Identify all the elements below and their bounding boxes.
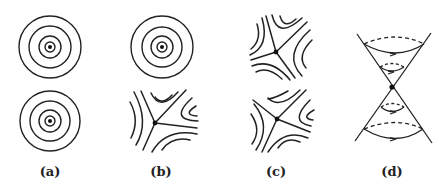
panel-c-bottom-saddle <box>251 90 314 152</box>
panel-label-c: (c) <box>266 164 286 179</box>
phase-portrait-figure <box>0 0 447 184</box>
panel-a-top-center <box>19 16 81 78</box>
panel-b-bottom-saddle <box>130 90 198 152</box>
panel-label-d: (d) <box>381 164 402 179</box>
panel-label-b: (b) <box>150 164 171 179</box>
panel-b-top-center <box>131 16 193 78</box>
panel-label-a: (a) <box>40 164 61 179</box>
panel-a-bottom-center <box>20 91 80 151</box>
panel-d-double-cone <box>355 33 432 143</box>
panel-c-top-saddle <box>250 15 312 80</box>
